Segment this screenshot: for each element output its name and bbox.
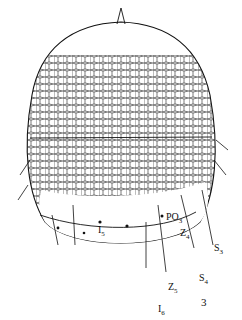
label-sub: 3: [220, 248, 224, 256]
label-S4: S4: [199, 273, 208, 286]
label-sub: 4: [186, 233, 190, 241]
label-PO3: PO3: [166, 212, 182, 225]
label-Z5: Z5: [168, 282, 178, 295]
label-sub: 6: [161, 309, 165, 317]
mite-dorsal-shield-drawing: [0, 0, 242, 320]
figure-number: 3: [201, 296, 207, 308]
label-I5: I5: [98, 225, 105, 238]
label-I6: I6: [158, 304, 165, 317]
label-sub: 3: [179, 217, 183, 225]
reticulation: [20, 55, 225, 205]
label-S3: S3: [214, 243, 223, 256]
label-sub: 5: [174, 287, 178, 295]
label-Z4: Z4: [180, 228, 190, 241]
label-base: PO: [166, 211, 179, 222]
label-sub: 5: [101, 230, 105, 238]
label-sub: 4: [205, 278, 209, 286]
